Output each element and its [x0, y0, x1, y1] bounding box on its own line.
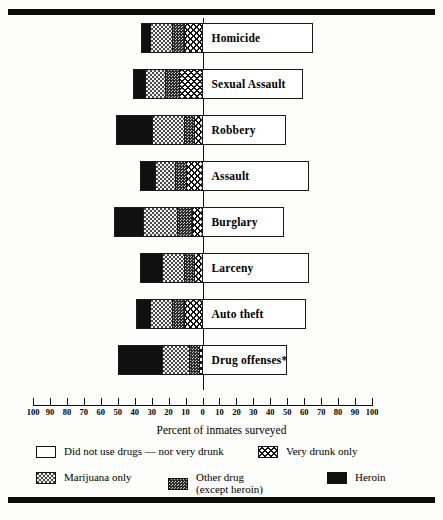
legend-label: Other drug (except heroin) [196, 472, 263, 496]
bar-segment-heroin [141, 254, 163, 282]
bar-category-label: Sexual Assault [203, 69, 286, 99]
bar-category-label: Auto theft [203, 299, 264, 329]
axis-tick-label: 60 [300, 407, 309, 417]
axis-tick [84, 398, 85, 406]
bar-segment-heroin [141, 162, 156, 190]
axis-tick [33, 398, 34, 406]
bar-segment-marijuana [163, 346, 190, 374]
bar-segment-other-drug [166, 70, 180, 98]
axis-tick [253, 398, 254, 406]
bar-segment-heroin [134, 70, 146, 98]
bar-segment-heroin [142, 24, 150, 52]
bar-segment-marijuana [163, 254, 185, 282]
axis-tick [118, 398, 119, 406]
axis-tick [338, 398, 339, 406]
swatch-light-dots-icon [36, 472, 56, 484]
bar-category-label: Drug offenses* [203, 345, 288, 375]
bar-row: Burglary [0, 207, 443, 237]
bar-category-label: Burglary [203, 207, 258, 237]
bar-segment-heroin [137, 300, 151, 328]
axis-tick [203, 398, 204, 406]
bar-segment-other-drug [176, 162, 186, 190]
swatch-medium-dots-icon [168, 478, 188, 490]
figure: HomicideSexual AssaultRobberyAssaultBurg… [0, 0, 443, 520]
axis-tick [236, 398, 237, 406]
axis-tick-label: 20 [232, 407, 241, 417]
axis-tick-label: 10 [215, 407, 224, 417]
legend-label: Very drunk only [286, 446, 358, 458]
legend-label-main: Other drug [196, 471, 244, 483]
legend-row-1: Did not use drugs — nor very drunk Very … [0, 446, 443, 466]
legend-item-heroin: Heroin [327, 472, 386, 484]
bar-segment-very-drunk [185, 24, 204, 52]
axis-tick [304, 398, 305, 406]
swatch-crosshatch-icon [258, 446, 278, 458]
bar-segment-other-drug [178, 208, 193, 236]
bar-category-label: Assault [203, 161, 250, 191]
axis-tick [355, 398, 356, 406]
axis-tick-label: 10 [181, 407, 190, 417]
x-axis: 1009080706050403020100102030405060708090… [0, 397, 443, 427]
axis-tick-label: 70 [80, 407, 89, 417]
axis-tick-label: 50 [114, 407, 123, 417]
axis-title: Percent of inmates surveyed [0, 424, 443, 436]
bar-segment-other-drug [173, 300, 185, 328]
bar-category-label: Larceny [203, 253, 254, 283]
axis-tick-label: 50 [283, 407, 292, 417]
axis-tick-label: 40 [266, 407, 275, 417]
axis-tick-label: 60 [97, 407, 106, 417]
legend-row-2: Marijuana only Other drug (except heroin… [0, 472, 443, 492]
bar-row: Assault [0, 161, 443, 191]
bar-segment-marijuana [153, 116, 185, 144]
legend-label: Did not use drugs — nor very drunk [64, 446, 224, 458]
bar-segment-very-drunk [185, 300, 204, 328]
bar-row: Homicide [0, 23, 443, 53]
axis-tick [186, 398, 187, 406]
axis-tick [50, 398, 51, 406]
axis-tick-label: 90 [46, 407, 55, 417]
legend-item-other-drug: Other drug (except heroin) [168, 472, 263, 496]
bar-row: Drug offenses* [0, 345, 443, 375]
bar-segment-marijuana [151, 300, 173, 328]
stacked-bar [114, 207, 284, 237]
bar-segment-heroin [115, 208, 144, 236]
bar-segment-other-drug [185, 116, 195, 144]
axis-tick-label: 100 [366, 407, 379, 417]
bar-row: Sexual Assault [0, 69, 443, 99]
swatch-white-icon [36, 446, 56, 458]
bar-segment-very-drunk [187, 162, 204, 190]
bar-row: Auto theft [0, 299, 443, 329]
axis-tick-label: 70 [317, 407, 326, 417]
axis-tick [372, 398, 373, 406]
axis-tick [270, 398, 271, 406]
axis-tick-label: 90 [351, 407, 360, 417]
axis-tick [321, 398, 322, 406]
bar-row: Robbery [0, 115, 443, 145]
legend-item-very-drunk: Very drunk only [258, 446, 358, 458]
legend-label: Heroin [355, 472, 386, 484]
axis-tick-label: 40 [130, 407, 139, 417]
axis-tick [135, 398, 136, 406]
plot-area: HomicideSexual AssaultRobberyAssaultBurg… [0, 18, 443, 390]
axis-tick [67, 398, 68, 406]
axis-tick [152, 398, 153, 406]
bar-segment-marijuana [156, 162, 176, 190]
swatch-black-icon [327, 472, 347, 484]
axis-tick [219, 398, 220, 406]
bar-segment-very-drunk [180, 70, 204, 98]
bar-row: Larceny [0, 253, 443, 283]
bar-segment-marijuana [151, 24, 173, 52]
legend-label: Marijuana only [64, 472, 132, 484]
bar-segment-heroin [117, 116, 153, 144]
legend-item-marijuana: Marijuana only [36, 472, 132, 484]
axis-tick-label: 20 [164, 407, 173, 417]
axis-tick-label: 30 [249, 407, 258, 417]
axis-tick-label: 30 [147, 407, 156, 417]
bar-segment-heroin [119, 346, 163, 374]
stacked-bar [116, 115, 286, 145]
axis-tick-label: 100 [27, 407, 40, 417]
bar-segment-marijuana [146, 70, 166, 98]
bar-category-label: Robbery [203, 115, 256, 145]
axis-tick [169, 398, 170, 406]
axis-tick-label: 80 [334, 407, 343, 417]
